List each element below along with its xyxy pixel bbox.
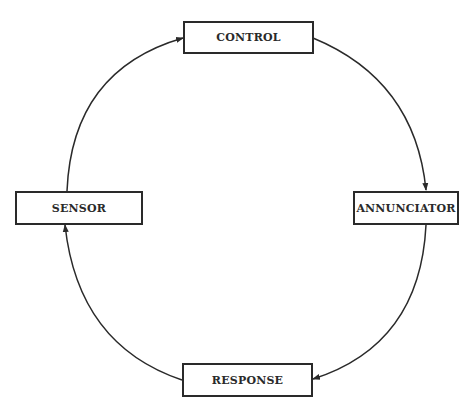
node-annunciator-label: ANNUNCIATOR	[356, 202, 455, 215]
node-control: CONTROL	[183, 21, 314, 54]
node-annunciator: ANNUNCIATOR	[353, 191, 459, 225]
arrow-annunciator-to-response	[313, 225, 426, 379]
node-sensor: SENSOR	[15, 191, 143, 225]
node-sensor-label: SENSOR	[52, 202, 106, 215]
arrow-control-to-annunciator	[313, 38, 426, 190]
arrow-sensor-to-control	[67, 38, 183, 191]
arrow-response-to-sensor	[65, 225, 182, 380]
node-response-label: RESPONSE	[212, 374, 283, 387]
node-control-label: CONTROL	[216, 31, 280, 44]
node-response: RESPONSE	[182, 363, 313, 397]
